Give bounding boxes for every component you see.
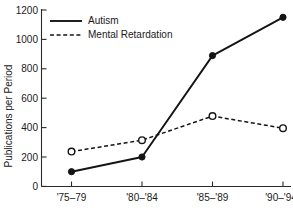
mental-retardation-point-85-89 xyxy=(209,113,216,120)
mental-retardation-point-80-84 xyxy=(139,137,146,144)
autism-point-85-89 xyxy=(209,53,215,59)
publications-per-period-line-chart: 1200 1000 800 600 400 200 0 '75–79 '80–'… xyxy=(0,0,293,219)
series-mental-retardation xyxy=(68,113,286,155)
y-tick-label-200: 200 xyxy=(21,152,38,163)
x-tick-label-75-79: '75–79 xyxy=(57,192,87,203)
y-tick-label-1000: 1000 xyxy=(16,34,39,45)
y-tick-label-1200: 1200 xyxy=(16,5,39,16)
autism-line xyxy=(72,17,284,171)
y-axis-title: Publications per Period xyxy=(3,65,14,168)
y-axis-ticks xyxy=(42,10,47,186)
autism-point-80-84 xyxy=(139,154,145,160)
autism-point-75-79 xyxy=(68,169,74,175)
x-tick-label-90-94: '90–'94 xyxy=(265,192,293,203)
y-tick-label-600: 600 xyxy=(21,93,38,104)
y-tick-label-0: 0 xyxy=(32,181,38,192)
chart-legend: Autism Mental Retardation xyxy=(50,15,173,40)
autism-point-90-94 xyxy=(280,14,286,20)
legend-label-autism: Autism xyxy=(88,15,119,26)
mental-retardation-line xyxy=(72,116,284,152)
mental-retardation-point-90-94 xyxy=(280,125,287,132)
chart-canvas: 1200 1000 800 600 400 200 0 '75–79 '80–'… xyxy=(0,0,293,219)
x-axis-tick-labels: '75–79 '80–'84 '85–'89 '90–'94 xyxy=(57,192,293,203)
legend-item-mental-retardation: Mental Retardation xyxy=(50,29,173,40)
x-tick-label-80-84: '80–'84 xyxy=(126,192,158,203)
y-tick-label-400: 400 xyxy=(21,122,38,133)
legend-item-autism: Autism xyxy=(50,15,119,26)
mental-retardation-point-75-79 xyxy=(68,148,75,155)
x-tick-label-85-89: '85–'89 xyxy=(197,192,229,203)
x-axis-ticks xyxy=(72,182,284,187)
y-tick-label-800: 800 xyxy=(21,63,38,74)
legend-label-mental-retardation: Mental Retardation xyxy=(88,29,173,40)
y-axis-tick-labels: 1200 1000 800 600 400 200 0 xyxy=(16,5,39,192)
